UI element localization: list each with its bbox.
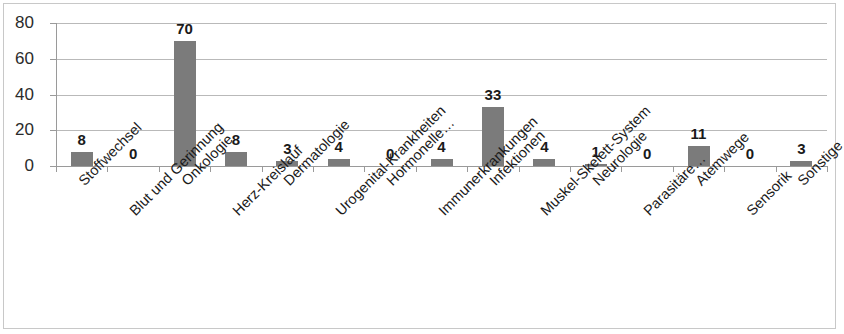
bar[interactable]: [328, 159, 350, 166]
bar-value-label: 8: [58, 132, 106, 147]
y-tick-label-40: 40: [0, 86, 34, 103]
x-axis-label: Sensorik: [744, 168, 794, 218]
bar[interactable]: [431, 159, 453, 166]
bar-value-label: 11: [675, 126, 723, 141]
x-tick-mark-0: [56, 166, 57, 172]
y-tick-label-80: 80: [0, 14, 34, 31]
x-tick-mark-14: [776, 166, 777, 172]
y-tick-label-60: 60: [0, 50, 34, 67]
y-tick-label-20: 20: [0, 121, 34, 138]
bar[interactable]: [225, 152, 247, 166]
x-tick-mark-6: [364, 166, 365, 172]
bar-value-label: 33: [469, 87, 517, 102]
bar[interactable]: [533, 159, 555, 166]
y-tick-label-0: 0: [0, 157, 34, 174]
chart-frame: 020406080 807083404334101103 Stoffwechse…: [3, 3, 836, 329]
x-tick-mark-2: [159, 166, 160, 172]
x-tick-mark-10: [570, 166, 571, 172]
x-tick-mark-8: [467, 166, 468, 172]
bar-value-label: 70: [161, 21, 209, 36]
x-tick-mark-12: [673, 166, 674, 172]
x-tick-mark-4: [262, 166, 263, 172]
